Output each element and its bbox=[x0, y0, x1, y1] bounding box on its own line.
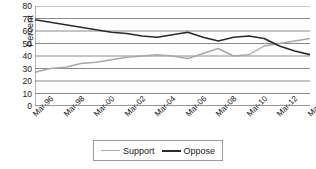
legend-item-oppose: Oppose bbox=[162, 146, 216, 156]
x-axis-tick-label: Mar-00 bbox=[92, 94, 116, 118]
chart-container: Percent 80706050403020100 Mar-96Mar-98Ma… bbox=[0, 0, 316, 169]
legend-label-support: Support bbox=[123, 146, 155, 156]
page-bottom-rule bbox=[0, 163, 316, 169]
x-axis-tick-label: Mar-14 bbox=[306, 94, 316, 118]
x-axis-tick-label: Mar-10 bbox=[245, 94, 269, 118]
x-axis-tick-label: Mar-12 bbox=[275, 94, 299, 118]
legend-swatch-support bbox=[101, 150, 120, 151]
legend-label-oppose: Oppose bbox=[184, 146, 216, 156]
x-axis-tick-label: Mar-02 bbox=[123, 94, 147, 118]
x-axis-tick-label: Mar-96 bbox=[31, 94, 55, 118]
x-axis-tick-label: Mar-98 bbox=[62, 94, 86, 118]
legend-swatch-oppose bbox=[162, 150, 181, 152]
legend-item-support: Support bbox=[101, 146, 155, 156]
x-axis-tick-label: Mar-04 bbox=[153, 94, 177, 118]
x-axis-tick-label: Mar-06 bbox=[184, 94, 208, 118]
chart-legend: Support Oppose bbox=[93, 140, 223, 161]
x-axis-tick-label: Mar-08 bbox=[214, 94, 238, 118]
